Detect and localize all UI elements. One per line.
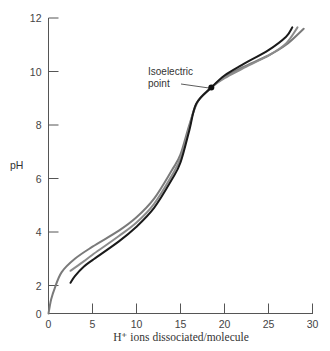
annotation-line-1: Isoelectric — [148, 66, 193, 77]
y-ticks: 024681012 — [30, 12, 59, 320]
x-axis-label: H⁺ ions dissociated/molecule — [113, 331, 249, 343]
x-tick-label: 0 — [46, 318, 52, 330]
x-tick-label: 30 — [307, 318, 319, 330]
isoelectric-annotation: Isoelectric point — [148, 66, 214, 91]
y-tick-label: 8 — [36, 119, 42, 131]
isoelectric-point-marker — [208, 85, 214, 91]
annotation-leader-line — [181, 84, 209, 88]
x-tick-label: 5 — [90, 318, 96, 330]
annotation-line-2: point — [148, 78, 170, 89]
y-axis-label: pH — [10, 159, 23, 171]
y-tick-label: 0 — [36, 308, 42, 320]
y-tick-label: 2 — [36, 280, 42, 292]
axes — [49, 18, 314, 314]
titration-chart: 024681012 051015202530 pH H⁺ ions dissoc… — [0, 0, 330, 351]
y-tick-label: 4 — [36, 226, 42, 238]
x-tick-label: 20 — [219, 318, 231, 330]
x-tick-label: 10 — [131, 318, 143, 330]
x-tick-label: 25 — [263, 318, 275, 330]
x-ticks: 051015202530 — [46, 304, 319, 331]
y-tick-label: 10 — [30, 66, 42, 78]
y-tick-label: 6 — [36, 173, 42, 185]
x-tick-label: 15 — [175, 318, 187, 330]
y-tick-label: 12 — [30, 12, 42, 24]
